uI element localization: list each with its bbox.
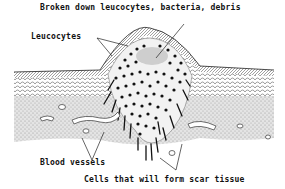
label-broken-down-leucocytes: Broken down leucocytes, bacteria, debris (40, 3, 241, 12)
label-blood-vessels: Blood vessels (40, 158, 105, 167)
abscess-diagram: Broken down leucocytes, bacteria, debris… (0, 0, 285, 189)
label-scar-tissue-cells: Cells that will form scar tissue (84, 175, 245, 184)
label-leucocytes: Leucocytes (31, 32, 81, 41)
